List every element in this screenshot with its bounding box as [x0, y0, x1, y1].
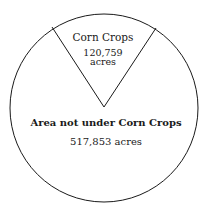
corn-crops-value: 120,759 acres [83, 48, 122, 66]
corn-crops-label: Corn Crops [73, 31, 134, 43]
corn-crops-unit: acres [83, 57, 122, 66]
non-corn-value: 517,853 acres [70, 136, 142, 147]
non-corn-label: Area not under Corn Crops [30, 117, 181, 128]
